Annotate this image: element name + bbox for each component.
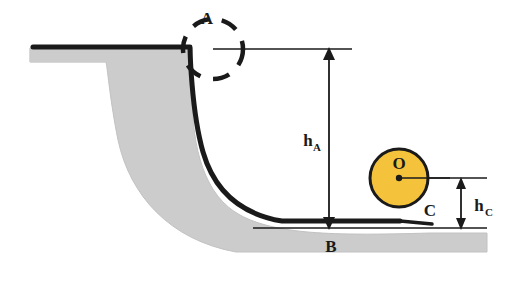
reference-lines — [213, 49, 487, 228]
ball-center-dot-icon — [396, 175, 402, 181]
dimension-ha — [323, 47, 335, 230]
label-height-a: h — [303, 131, 313, 150]
label-point-c: C — [424, 201, 436, 220]
ramp-tail-right — [400, 221, 432, 224]
label-height-c: h — [474, 196, 484, 215]
label-height-a-subscript: A — [313, 141, 321, 153]
label-point-o: O — [392, 154, 405, 173]
ramp-curve — [33, 47, 432, 224]
physics-diagram-figure: A B C O h A h C — [0, 0, 525, 285]
label-point-a: A — [201, 9, 214, 28]
label-point-b: B — [325, 237, 336, 256]
diagram-canvas: A B C O h A h C — [0, 0, 525, 285]
dimension-hc — [456, 177, 466, 230]
label-height-c-subscript: C — [485, 206, 493, 218]
